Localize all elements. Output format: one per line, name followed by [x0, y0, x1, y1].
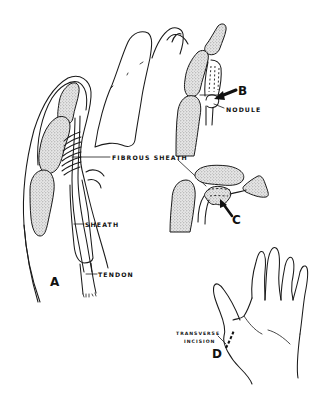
panel-c-proximal-phalanx [170, 180, 195, 232]
background-finger-outline [95, 32, 152, 147]
palm-ulnar-edge [297, 334, 300, 378]
panel-b-distal-phalanx [205, 24, 226, 55]
panel-c-middle-phalanx [195, 165, 244, 185]
nodule-leader-line [214, 104, 224, 108]
panel-b-nodule-dots [209, 66, 219, 92]
panel-label-d: D [212, 347, 222, 361]
panel-label-a: A [50, 275, 60, 289]
tendon-frayed-end [83, 293, 96, 297]
panel-label-b: B [238, 84, 247, 98]
palm-crease-thenar [244, 316, 262, 334]
metacarpal [30, 170, 54, 236]
nodule-label: NODULE [226, 106, 261, 113]
sheath-label: SHEATH [85, 221, 119, 228]
panel-label-c: C [232, 213, 241, 227]
palm-middle-finger [265, 248, 281, 301]
incision-leader-line [218, 336, 226, 344]
panel-c-distal-phalanx [243, 176, 268, 197]
panel-a-thumb: A SHEATH TENDON [23, 28, 183, 302]
palm-little-finger [293, 266, 308, 334]
panel-b-outline-arc [167, 34, 188, 44]
palm-index-finger [252, 251, 266, 300]
trigger-thumb-diagram: A SHEATH TENDON FIBROUS SHEATH B [0, 0, 329, 398]
incision-label: INCISION [184, 339, 215, 344]
tendon-label: TENDON [98, 271, 134, 278]
panel-b-nodule: B NODULE [167, 24, 261, 156]
transverse-incision-mark [226, 330, 234, 348]
thumb-web-line [86, 170, 104, 188]
panel-c-caught-nodule: C [170, 165, 268, 232]
transverse-label: TRANSVERSE [176, 331, 220, 336]
panel-b-tendon-below [206, 106, 213, 125]
palm-crease-distal [268, 330, 290, 344]
background-finger-outline-2 [152, 28, 183, 58]
palm-ring-finger [281, 257, 294, 300]
tendon-stump [80, 263, 96, 294]
panel-d-palm: TRANSVERSE INCISION D [176, 248, 308, 385]
palm-outline [233, 298, 252, 320]
panel-b-proximal-phalanx [176, 96, 201, 156]
